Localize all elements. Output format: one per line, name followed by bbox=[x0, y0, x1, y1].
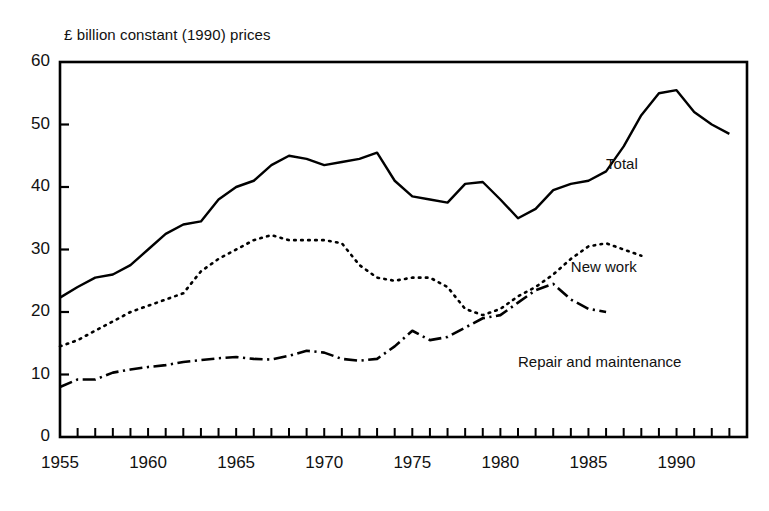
y-tick-label: 0 bbox=[10, 426, 50, 446]
x-tick-label: 1985 bbox=[558, 453, 618, 473]
series-label-repair-and-maintenance: Repair and maintenance bbox=[518, 353, 681, 370]
y-tick-label: 60 bbox=[10, 51, 50, 71]
series-line-repair-and-maintenance bbox=[60, 284, 606, 387]
x-tick-label: 1960 bbox=[118, 453, 178, 473]
x-tick-label: 1970 bbox=[294, 453, 354, 473]
plot-area bbox=[0, 0, 769, 511]
series-lines bbox=[60, 90, 729, 387]
y-tick-label: 10 bbox=[10, 364, 50, 384]
x-tick-label: 1990 bbox=[647, 453, 707, 473]
y-tick-label: 40 bbox=[10, 176, 50, 196]
x-tick-label: 1965 bbox=[206, 453, 266, 473]
series-label-total: Total bbox=[606, 155, 638, 172]
x-tick-label: 1975 bbox=[382, 453, 442, 473]
y-tick-label: 20 bbox=[10, 301, 50, 321]
x-tick-label: 1980 bbox=[470, 453, 530, 473]
x-tick-label: 1955 bbox=[30, 453, 90, 473]
chart-figure: £ billion constant (1990) prices 0102030… bbox=[0, 0, 769, 511]
y-tick-label: 50 bbox=[10, 114, 50, 134]
plot-frame bbox=[60, 62, 747, 437]
y-tick-label: 30 bbox=[10, 239, 50, 259]
series-label-new-work: New work bbox=[571, 258, 637, 275]
